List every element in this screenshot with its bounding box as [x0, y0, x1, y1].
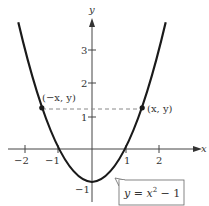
y-tick-label: 2	[81, 78, 87, 89]
x-tick-label: −2	[14, 155, 29, 166]
point-left-label: (−x, y)	[42, 92, 76, 103]
point-left	[39, 105, 44, 110]
x-tick-label: −1	[45, 155, 60, 166]
x-tick-label: 2	[156, 155, 162, 166]
parabola-figure: (−x, y) (x, y) y x −2 −1 1 2 3 2 1 −1 y …	[0, 0, 209, 206]
equation-label: y = x2 − 1	[123, 186, 180, 200]
y-axis	[88, 18, 96, 202]
x-tick-label: 1	[124, 155, 130, 166]
y-tick-label: −1	[75, 184, 90, 195]
point-right-label: (x, y)	[147, 103, 173, 114]
y-tick-label: 1	[81, 112, 87, 123]
y-axis-label: y	[88, 4, 95, 15]
point-right	[140, 105, 145, 110]
y-axis-arrow-icon	[89, 18, 95, 27]
equation-rest: − 1	[157, 187, 180, 200]
y-tick-label: 3	[81, 45, 87, 56]
equation-equals: =	[130, 187, 146, 200]
equation-callout: y = x2 − 1	[115, 178, 184, 205]
x-axis	[8, 145, 202, 153]
x-axis-label: x	[201, 143, 207, 154]
